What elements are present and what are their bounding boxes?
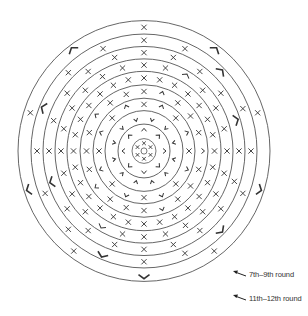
- single-crochet-icon: [212, 248, 217, 253]
- single-crochet-icon: [126, 77, 131, 82]
- single-crochet-icon: [65, 91, 70, 96]
- single-crochet-icon: [84, 148, 89, 153]
- single-crochet-icon: [224, 148, 229, 153]
- single-crochet-icon: [157, 220, 162, 225]
- single-crochet-icon: [197, 194, 202, 199]
- single-crochet-icon: [86, 194, 91, 199]
- round-ring: [18, 21, 270, 282]
- single-crochet-icon: [112, 242, 117, 247]
- single-crochet-icon: [157, 77, 162, 82]
- round-ring: [93, 98, 195, 204]
- single-crochet-icon: [73, 165, 78, 170]
- single-crochet-icon: [78, 180, 83, 185]
- single-crochet-icon: [51, 118, 56, 123]
- legend-label: 11th–12th round: [249, 294, 302, 303]
- single-crochet-icon: [141, 247, 146, 252]
- single-crochet-icon: [73, 132, 78, 137]
- single-crochet-icon: [200, 88, 205, 93]
- single-crochet-icon: [141, 38, 146, 43]
- single-crochet-icon: [65, 206, 70, 211]
- single-crochet-icon: [222, 126, 227, 131]
- stitch-symbols: [25, 25, 263, 279]
- arrow-icon: [232, 269, 248, 279]
- v-stitch-icon: [112, 140, 116, 145]
- chain-arc-icon: [99, 130, 104, 136]
- single-crochet-icon: [185, 91, 190, 96]
- chain-arc-icon: [159, 207, 165, 211]
- concentric-rings: [18, 21, 270, 282]
- chain-arc-icon: [122, 149, 125, 154]
- single-crochet-icon: [124, 205, 129, 210]
- single-crochet-icon: [34, 148, 39, 153]
- v-stitch-icon: [120, 171, 125, 176]
- single-crochet-icon: [173, 181, 178, 186]
- chain-arc-icon: [127, 133, 133, 139]
- chain-arc-icon: [182, 72, 190, 79]
- chain-arc-icon: [159, 104, 165, 109]
- single-crochet-icon: [100, 74, 105, 79]
- v-stitch-icon: [150, 118, 155, 122]
- round-ring: [55, 59, 233, 243]
- single-crochet-icon: [205, 180, 210, 185]
- single-crochet-icon: [196, 130, 201, 135]
- single-crochet-icon: [213, 105, 218, 110]
- single-crochet-icon: [255, 110, 260, 115]
- single-crochet-icon: [142, 141, 146, 145]
- single-crochet-icon: [111, 83, 116, 88]
- v-stitch-icon: [134, 180, 139, 184]
- single-crochet-icon: [141, 89, 146, 94]
- single-crochet-icon: [78, 117, 83, 122]
- chain-arc-icon: [156, 133, 162, 139]
- single-crochet-icon: [171, 55, 176, 60]
- single-crochet-icon: [110, 181, 115, 186]
- chain-arc-icon: [142, 128, 147, 131]
- single-crochet-icon: [126, 220, 131, 225]
- single-crochet-icon: [163, 65, 168, 70]
- single-crochet-icon: [185, 205, 190, 210]
- round-ring: [31, 34, 257, 268]
- v-stitch-icon: [163, 171, 168, 176]
- single-crochet-icon: [120, 231, 125, 236]
- single-crochet-icon: [172, 83, 177, 88]
- single-crochet-icon: [61, 171, 66, 176]
- single-crochet-icon: [87, 130, 92, 135]
- single-crochet-icon: [141, 75, 146, 80]
- single-crochet-icon: [43, 191, 48, 196]
- single-crochet-icon: [173, 115, 178, 120]
- single-crochet-icon: [197, 69, 202, 74]
- single-crochet-icon: [222, 171, 227, 176]
- single-crochet-icon: [141, 62, 146, 67]
- chain-arc-icon: [256, 184, 263, 196]
- chain-arc-icon: [25, 184, 32, 196]
- single-crochet-icon: [236, 148, 241, 153]
- single-crochet-icon: [149, 153, 153, 157]
- chain-arc-icon: [98, 223, 106, 230]
- legend-item-11th-12th: 11th–12th round: [232, 292, 302, 304]
- single-crochet-icon: [200, 209, 205, 214]
- single-crochet-icon: [141, 195, 146, 200]
- chain-arc-icon: [185, 130, 190, 136]
- single-crochet-icon: [183, 223, 188, 228]
- single-crochet-icon: [141, 234, 146, 239]
- single-crochet-icon: [96, 148, 101, 153]
- chain-arc-icon: [94, 112, 99, 118]
- single-crochet-icon: [240, 106, 245, 111]
- chain-arc-icon: [216, 225, 227, 236]
- single-crochet-icon: [46, 148, 51, 153]
- single-crochet-icon: [182, 46, 187, 51]
- single-crochet-icon: [86, 69, 91, 74]
- single-crochet-icon: [141, 102, 146, 107]
- round-ring: [105, 111, 183, 192]
- single-crochet-icon: [213, 191, 218, 196]
- single-crochet-icon: [218, 91, 223, 96]
- single-crochet-icon: [83, 88, 88, 93]
- single-crochet-icon: [188, 113, 193, 118]
- round-ring: [141, 148, 147, 154]
- v-stitch-icon: [163, 126, 168, 131]
- single-crochet-icon: [163, 231, 168, 236]
- single-crochet-icon: [83, 209, 88, 214]
- single-crochet-icon: [124, 92, 129, 97]
- chain-arc-icon: [139, 275, 150, 279]
- single-crochet-icon: [86, 228, 91, 233]
- single-crochet-icon: [66, 70, 71, 75]
